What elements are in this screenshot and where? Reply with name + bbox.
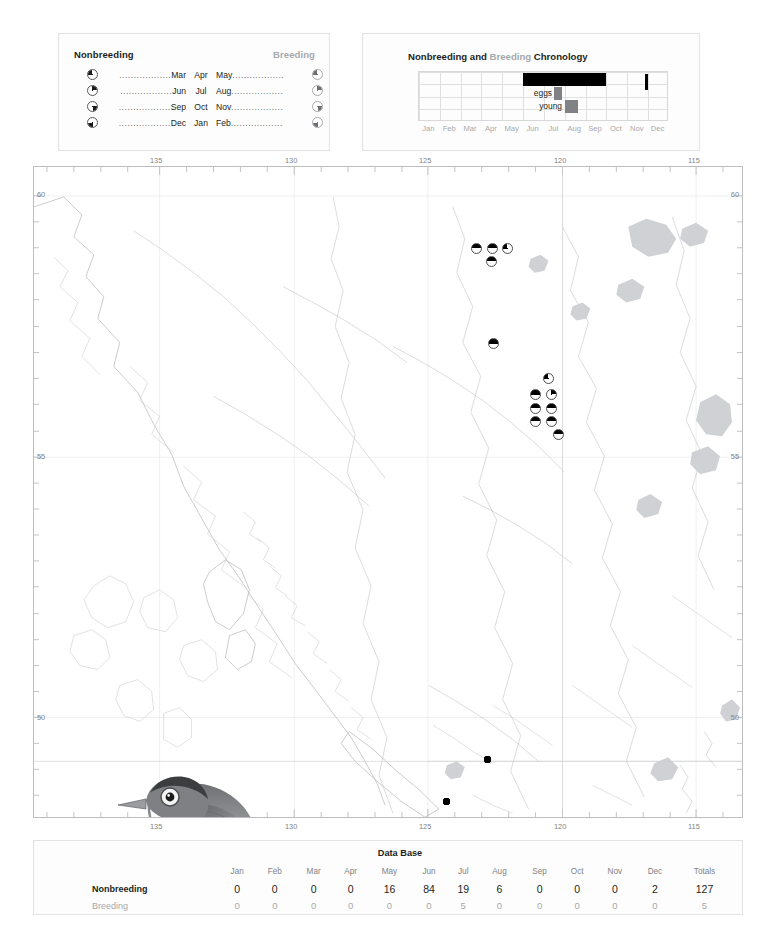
quarter-pie-bottom-left-breeding-icon (312, 117, 323, 128)
occurrence-marker[interactable] (553, 429, 564, 440)
chronology-month-jul: Jul (543, 124, 564, 133)
chronology-title-part1: Nonbreeding and (408, 51, 490, 62)
occurrence-marker[interactable] (530, 416, 541, 427)
map-lon-label-top-120: 120 (554, 156, 566, 165)
legend-row-list: ..................Mar Apr May...........… (59, 67, 329, 131)
table-row-label-nonbreeding: Nonbreeding (44, 880, 219, 897)
legend-month-dec: ..................Dec (99, 118, 186, 128)
legend-heading-breeding: Breeding (273, 49, 315, 60)
table-row-label-breeding: Breeding (44, 897, 219, 914)
table-cell: 0 (595, 880, 635, 897)
chronology-month-mar: Mar (460, 124, 481, 133)
legend-month-may: May.................. (216, 70, 308, 80)
table-cell-total: 127 (675, 880, 734, 897)
occurrence-marker[interactable] (530, 389, 541, 400)
chronology-month-apr: Apr (480, 124, 501, 133)
occurrence-marker[interactable] (443, 798, 450, 805)
chronology-title: Nonbreeding and Breeding Chronology (408, 51, 588, 62)
chronology-bar-eggs (554, 87, 562, 100)
map-lon-label-top-125: 125 (419, 156, 431, 165)
quarter-pie-bottom-right-breeding-icon (312, 101, 323, 112)
table-cell: 0 (595, 897, 635, 914)
map-lon-label-top-130: 130 (285, 156, 297, 165)
distribution-map[interactable]: .cl { fill:none; stroke:#b9bbbd; stroke-… (33, 166, 743, 818)
quarter-pie-bottom-right-icon (87, 101, 98, 112)
legend-row: ..................Mar Apr May...........… (59, 67, 329, 83)
legend-row: ..................Sep Oct Nov...........… (59, 99, 329, 115)
occurrence-marker[interactable] (484, 756, 491, 763)
chronology-month-jan: Jan (418, 124, 439, 133)
legend-month-mar: ..................Mar (99, 70, 186, 80)
legend-month-jul: Jul (190, 86, 212, 96)
table-cell: 19 (447, 880, 479, 897)
chronology-month-jun: Jun (522, 124, 543, 133)
table-header-mar: Mar (294, 863, 333, 880)
leader-dots: .................. (231, 102, 283, 112)
legend-month-jan: Jan (190, 118, 212, 128)
table-row: Breeding 0 0 0 0 0 0 5 0 0 0 0 0 5 (44, 897, 734, 914)
leader-dots: .................. (120, 86, 172, 96)
legend-row: ..................Dec Jan Feb...........… (59, 115, 329, 131)
occurrence-marker[interactable] (487, 243, 498, 254)
legend-month-label: Jun (172, 86, 186, 96)
legend-month-label: Feb (216, 118, 231, 128)
table-header-may: May (368, 863, 411, 880)
chronology-month-may: May (501, 124, 522, 133)
map-lat-label-left-60: 60 (37, 190, 45, 199)
table-corner-cell (44, 863, 219, 880)
table-cell: 0 (635, 897, 675, 914)
table-cell: 0 (520, 897, 560, 914)
map-lat-label-left-50: 50 (37, 713, 45, 722)
map-lat-label-left-55: 55 (37, 452, 45, 461)
leader-dots: .................. (232, 70, 284, 80)
legend-month-label: Sep (171, 102, 186, 112)
table-cell: 0 (520, 880, 560, 897)
table-cell: 5 (447, 897, 479, 914)
map-basemap: .cl { fill:none; stroke:#b9bbbd; stroke-… (34, 167, 742, 817)
occurrence-marker[interactable] (546, 403, 557, 414)
quarter-pie-bottom-left-icon (87, 117, 98, 128)
map-lon-label-top-115: 115 (688, 156, 700, 165)
map-lon-label-bottom-135: 135 (150, 822, 162, 831)
table-cell-total: 5 (675, 897, 734, 914)
table-cell: 0 (560, 880, 595, 897)
table-header-dec: Dec (635, 863, 675, 880)
table-cell: 0 (479, 897, 519, 914)
quarter-pie-top-left-icon (87, 69, 98, 80)
chronology-month-aug: Aug (564, 124, 585, 133)
map-lat-label-right-50: 50 (731, 713, 739, 722)
map-lon-label-bottom-125: 125 (419, 822, 431, 831)
occurrence-marker[interactable] (530, 403, 541, 414)
table-cell: 84 (411, 880, 447, 897)
table-cell: 0 (255, 880, 294, 897)
occurrence-marker[interactable] (543, 373, 554, 384)
map-lat-label-right-55: 55 (731, 452, 739, 461)
chronology-month-axis: Jan Feb Mar Apr May Jun Jul Aug Sep Oct … (418, 124, 668, 133)
leader-dots: .................. (119, 102, 171, 112)
table-cell: 16 (368, 880, 411, 897)
chronology-month-dec: Dec (647, 124, 668, 133)
legend-month-label: Aug (216, 86, 231, 96)
chronology-month-feb: Feb (439, 124, 460, 133)
table-cell: 2 (635, 880, 675, 897)
occurrence-marker[interactable] (488, 338, 499, 349)
leader-dots: .................. (231, 118, 283, 128)
table-row: Nonbreeding 0 0 0 0 16 84 19 6 0 0 0 2 1… (44, 880, 734, 897)
chronology-bar-occurrence (523, 73, 606, 86)
table-cell: 0 (333, 880, 368, 897)
table-cell: 0 (219, 880, 255, 897)
species-illustration (106, 765, 328, 818)
chronology-label-eggs: eggs (497, 88, 552, 98)
table-cell: 0 (368, 897, 411, 914)
occurrence-marker[interactable] (502, 243, 513, 254)
legend-month-label: Dec (171, 118, 186, 128)
table-cell: 0 (560, 897, 595, 914)
table-header-jun: Jun (411, 863, 447, 880)
table-header-feb: Feb (255, 863, 294, 880)
occurrence-marker[interactable] (486, 256, 497, 267)
occurrence-marker[interactable] (546, 389, 557, 400)
database-panel: Data Base Jan Feb Mar Apr May Jun Jul Au… (33, 840, 743, 915)
occurrence-marker[interactable] (546, 416, 557, 427)
occurrence-marker[interactable] (471, 243, 482, 254)
legend-month-jun: ..................Jun (99, 86, 186, 96)
